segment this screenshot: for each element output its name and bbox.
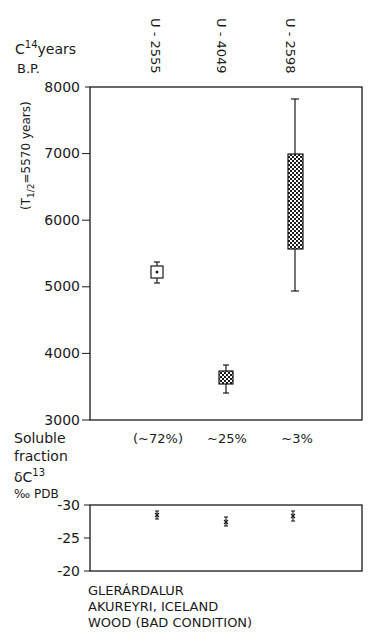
box-u4049 xyxy=(219,365,233,393)
ytick-6000: 6000 xyxy=(44,212,80,228)
soluble-label-line1: Soluble xyxy=(14,430,66,446)
delta-plot-frame xyxy=(90,505,362,571)
ytick-4000: 4000 xyxy=(44,345,80,361)
y-axis-unit: B.P. xyxy=(17,61,40,76)
delta-ytick-25: -25 xyxy=(57,530,80,546)
caption-line2: AKUREYRI, ICELAND xyxy=(88,599,218,614)
delta-point-u4049 xyxy=(224,517,228,526)
y-axis-title: C14years xyxy=(15,39,76,57)
ytick-7000: 7000 xyxy=(44,145,80,161)
delta-ytick-30: -30 xyxy=(57,497,80,513)
ytick-5000: 5000 xyxy=(44,278,80,294)
delta-point-u2555 xyxy=(155,511,159,519)
category-label-u2555: U - 2555 xyxy=(148,18,163,74)
delta-y-axis: -30 -25 -20 xyxy=(57,497,90,579)
category-label-u4049: U - 4049 xyxy=(214,18,229,74)
caption-line3: WOOD (BAD CONDITION) xyxy=(88,615,252,630)
delta-point-u2598 xyxy=(291,511,295,521)
chart-figure: U - 2555 U - 4049 U - 2598 C14years B.P.… xyxy=(0,0,374,642)
box-u2598 xyxy=(288,99,303,291)
category-label-u2598: U - 2598 xyxy=(283,18,298,74)
ytick-3000: 3000 xyxy=(44,412,80,428)
delta-ytick-20: -20 xyxy=(57,563,80,579)
delta-c13-label: δC13 xyxy=(14,467,45,485)
soluble-value-u2555: (~72%) xyxy=(133,431,183,446)
caption-line1: GLERÁRDALUR xyxy=(88,583,184,598)
pdb-label: ‰ PDB xyxy=(14,487,59,501)
soluble-value-u4049: ~25% xyxy=(207,431,247,446)
y-axis: 8000 7000 6000 5000 4000 3000 xyxy=(44,79,90,428)
half-life-label: (T1/2=5570 years) xyxy=(19,101,36,210)
ytick-8000: 8000 xyxy=(44,79,80,95)
soluble-value-u2598: ~3% xyxy=(281,431,313,446)
box-u2555 xyxy=(151,262,163,283)
soluble-label-line2: fraction xyxy=(14,448,68,464)
delta-points xyxy=(155,511,295,526)
